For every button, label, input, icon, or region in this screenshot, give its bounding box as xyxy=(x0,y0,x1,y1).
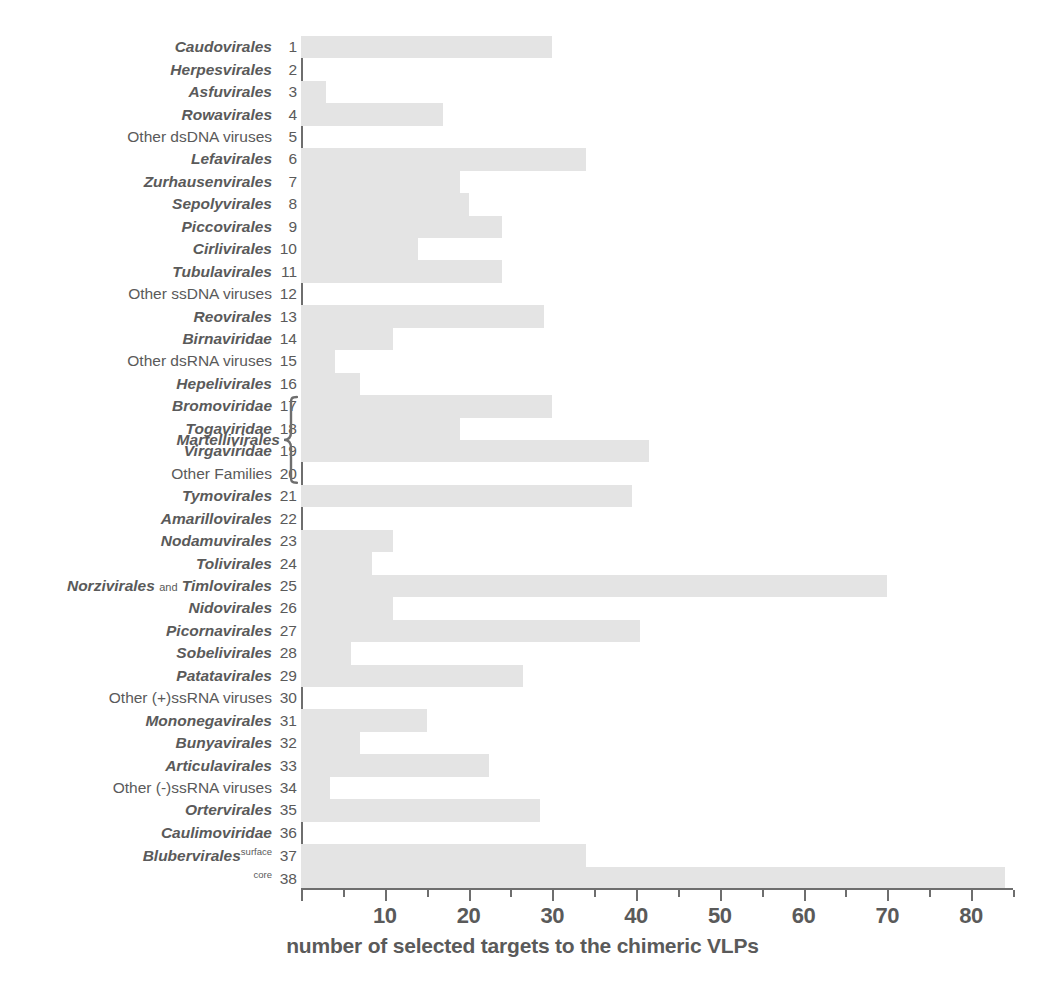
x-axis-tick xyxy=(678,890,680,897)
y-axis-labels: Caudovirales1Herpesvirales2Asfuvirales3R… xyxy=(0,36,297,889)
x-axis-tick-label: 80 xyxy=(959,903,982,929)
bar-row xyxy=(301,552,1013,574)
y-axis-label: Sepolyvirales8 xyxy=(0,196,297,212)
bar-row xyxy=(301,620,1013,642)
y-axis-label: Other (+)ssRNA viruses30 xyxy=(0,690,297,706)
y-axis-label: Birnaviridae14 xyxy=(0,331,297,347)
bar-row xyxy=(301,642,1013,664)
y-axis-label: Hepelivirales16 xyxy=(0,376,297,392)
y-axis-label: Sobelivirales28 xyxy=(0,645,297,661)
y-axis-label: Other dsRNA viruses15 xyxy=(0,353,297,369)
bar-row xyxy=(301,507,1013,529)
y-axis-label: Cirlivirales10 xyxy=(0,241,297,257)
y-axis-label: Ortervirales35 xyxy=(0,802,297,818)
bar-row xyxy=(301,732,1013,754)
bar-row xyxy=(301,575,1013,597)
x-axis-tick-label: 10 xyxy=(373,903,396,929)
bar xyxy=(301,485,632,507)
bar-row xyxy=(301,463,1013,485)
bar-row xyxy=(301,822,1013,844)
y-axis-label: Nodamuvirales23 xyxy=(0,533,297,549)
bar xyxy=(301,799,540,821)
bar xyxy=(301,754,489,776)
y-axis-label: Asfuvirales3 xyxy=(0,84,297,100)
y-axis-label: Amarillovirales22 xyxy=(0,511,297,527)
bar xyxy=(301,260,502,282)
bar xyxy=(301,36,552,58)
bar-row xyxy=(301,216,1013,238)
x-axis-tick xyxy=(762,890,764,897)
bar-row xyxy=(301,58,1013,80)
x-axis-tick xyxy=(510,890,512,897)
bar-row xyxy=(301,867,1013,889)
x-axis-tick xyxy=(845,890,847,897)
bar xyxy=(301,575,887,597)
x-axis-tick-label: 20 xyxy=(457,903,480,929)
x-axis-tick xyxy=(469,890,471,901)
bar xyxy=(301,216,502,238)
x-axis-tick xyxy=(343,890,345,897)
bar-row xyxy=(301,799,1013,821)
y-axis-label: core38 xyxy=(0,870,297,887)
bar xyxy=(301,844,586,866)
plot-area xyxy=(301,36,1013,889)
x-axis-tick-label: 30 xyxy=(541,903,564,929)
x-axis-tick xyxy=(594,890,596,897)
bar-row xyxy=(301,81,1013,103)
y-axis-label: Reovirales13 xyxy=(0,309,297,325)
bar xyxy=(301,350,335,372)
bar-row xyxy=(301,103,1013,125)
bar xyxy=(301,620,640,642)
x-axis-tick xyxy=(971,890,973,901)
bar-row xyxy=(301,485,1013,507)
bar-row xyxy=(301,687,1013,709)
x-axis-tick xyxy=(385,890,387,901)
bar xyxy=(301,777,330,799)
bar-row xyxy=(301,844,1013,866)
y-axis-label: Caulimoviridae36 xyxy=(0,825,297,841)
y-axis-label: Piccovirales9 xyxy=(0,219,297,235)
bar-row xyxy=(301,777,1013,799)
group-bracket: Martellivirales xyxy=(168,395,298,485)
bar xyxy=(301,373,360,395)
bar-row xyxy=(301,193,1013,215)
bar xyxy=(301,171,460,193)
bar xyxy=(301,103,443,125)
y-axis-label: Tolivirales24 xyxy=(0,556,297,572)
group-bracket-label: Martellivirales xyxy=(177,431,282,449)
y-axis-label: Bunyavirales32 xyxy=(0,735,297,751)
y-axis-label: Patatavirales29 xyxy=(0,668,297,684)
bar-row xyxy=(301,283,1013,305)
bar xyxy=(301,193,469,215)
bar-row xyxy=(301,395,1013,417)
x-axis-tick xyxy=(636,890,638,901)
bar xyxy=(301,81,326,103)
bar xyxy=(301,418,460,440)
bar-row xyxy=(301,709,1013,731)
bar-row xyxy=(301,754,1013,776)
bar-row xyxy=(301,440,1013,462)
y-axis-label: Norzivirales and Timlovirales25 xyxy=(0,578,297,594)
x-axis-tick xyxy=(301,890,303,901)
bar xyxy=(301,709,427,731)
x-axis-tick xyxy=(720,890,722,901)
y-axis-label: Other (-)ssRNA viruses34 xyxy=(0,780,297,796)
x-axis-ticks: 1020304050607080 xyxy=(301,890,1013,935)
bar-row xyxy=(301,305,1013,327)
y-axis-label: Other dsDNA viruses5 xyxy=(0,129,297,145)
y-axis-label: Caudovirales1 xyxy=(0,39,297,55)
y-axis-label: Bluberviralessurface37 xyxy=(0,847,297,864)
bar xyxy=(301,642,351,664)
y-axis-label: Picornavirales27 xyxy=(0,623,297,639)
y-axis-label: Other ssDNA viruses12 xyxy=(0,286,297,302)
y-axis-label: Tymovirales21 xyxy=(0,488,297,504)
bar xyxy=(301,732,360,754)
x-axis-tick-label: 60 xyxy=(792,903,815,929)
x-axis-tick xyxy=(427,890,429,897)
y-axis-label: Rowavirales4 xyxy=(0,107,297,123)
x-axis-tick xyxy=(804,890,806,901)
bar-row xyxy=(301,530,1013,552)
bar-row xyxy=(301,36,1013,58)
bar-row xyxy=(301,148,1013,170)
x-axis-tick xyxy=(552,890,554,901)
